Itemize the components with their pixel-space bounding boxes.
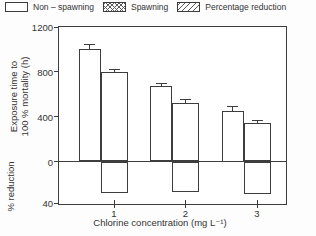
legend-item-spawning: Spawning [103,2,168,12]
y-axis-label-bottom: % reduction [6,152,17,222]
bar-percentage-reduction-3 [244,162,271,195]
legend-label-non-spawning: Non – spawning [33,2,94,12]
legend-item-non-spawning: Non – spawning [5,2,94,12]
y-tick-label: 40 [25,198,53,209]
bar-percentage-reduction-2 [172,162,199,193]
x-axis-label: Chlorine concentration (mg L⁻¹) [44,217,276,228]
error-bar-stem [89,45,90,49]
bar-non-spawning-3 [222,111,244,161]
y-axis-label-top: Exposure time to 100 % mortality (h) [9,32,30,162]
bar-percentage-reduction-1 [101,162,128,194]
bar-spawning-3 [244,123,271,161]
y-tick-label: 400 [25,112,53,123]
non-spawning-swatch-icon [5,2,28,12]
y-axis-label-top-line1: Exposure time to [9,32,20,162]
bar-non-spawning-1 [79,49,101,161]
error-bar-stem [161,84,162,87]
spawning-swatch-icon [103,2,126,12]
y-axis-label-top-line2: 100 % mortality (h) [19,32,30,162]
legend-label-percentage-reduction: Percentage reduction [205,2,286,12]
x-tick-label: 1 [104,208,124,219]
error-bar-stem [114,70,115,73]
x-axis-tick [114,200,115,208]
x-tick-label: 3 [247,208,267,219]
x-tick-label: 2 [176,208,196,219]
y-tick-label: 0 [25,157,53,168]
x-axis-tick [257,200,258,208]
legend: Non – spawning Spawning Percentage reduc… [5,2,286,12]
error-bar-stem [257,121,258,124]
y-axis-tick [54,161,59,162]
plot-area: 1200800400040123 [58,26,287,205]
y-axis-tick [54,203,59,204]
y-axis-tick [54,116,59,117]
error-bar-stem [185,100,186,103]
y-tick-label: 800 [25,67,53,78]
legend-item-percentage-reduction: Percentage reduction [177,2,286,12]
x-axis-tick [185,200,186,208]
legend-label-spawning: Spawning [131,2,168,12]
y-tick-label: 1200 [25,22,53,33]
bar-non-spawning-2 [150,86,172,161]
bar-spawning-1 [101,72,128,161]
error-bar-stem [232,107,233,111]
y-axis-tick [54,27,59,28]
bar-spawning-2 [172,103,199,161]
percentage-reduction-swatch-icon [177,2,200,12]
y-axis-tick [54,71,59,72]
